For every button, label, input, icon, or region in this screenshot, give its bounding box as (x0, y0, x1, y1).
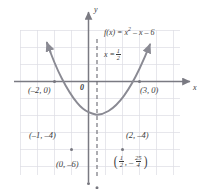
parabola-curve (47, 43, 150, 115)
vertex-open-paren: ( (114, 155, 118, 169)
point-label-right: (2, –4) (126, 131, 149, 140)
vertex-y-fraction: 25 4 (134, 155, 143, 169)
function-equation-rest: – x – 6 (131, 28, 155, 37)
dot-vertex (96, 186, 99, 189)
symmetry-fraction: 1 2 (116, 48, 121, 61)
vertex-x-denominator: 2 (119, 161, 124, 169)
y-axis-label: y (94, 6, 98, 14)
dot-point-left (70, 148, 73, 151)
axis-of-symmetry-label: x = 1 2 (104, 48, 121, 61)
function-equation-main: f(x) = x (104, 28, 128, 37)
x-axis-label: x (193, 84, 197, 92)
point-label-left: (–1, –4) (29, 131, 56, 140)
point-label-x-intercept-left: (–2, 0) (28, 86, 51, 95)
vertex-x-numerator: 1 (119, 155, 124, 162)
vertex-y-denominator: 4 (136, 161, 141, 169)
vertex-comma: , – (125, 157, 134, 167)
point-label-x-intercept-right: (3, 0) (140, 86, 158, 95)
vertex-x-fraction: 1 2 (119, 155, 124, 169)
point-label-y-intercept: (0, –6) (56, 160, 79, 169)
function-equation-label: f(x) = x2 – x – 6 (104, 29, 155, 37)
dot-x-intercept-right (138, 80, 141, 83)
vertex-close-paren: ) (144, 155, 148, 169)
dot-point-right (121, 148, 124, 151)
grid-lines (20, 30, 180, 175)
origin-label: 0 (80, 84, 84, 92)
symmetry-lhs: x = (104, 51, 115, 59)
dot-x-intercept-left (53, 80, 56, 83)
dot-y-intercept (87, 182, 90, 185)
vertex-y-numerator: 25 (134, 155, 143, 162)
symmetry-denominator: 2 (116, 54, 121, 61)
vertex-label: ( 1 2 , – 25 4 ) (113, 155, 148, 169)
